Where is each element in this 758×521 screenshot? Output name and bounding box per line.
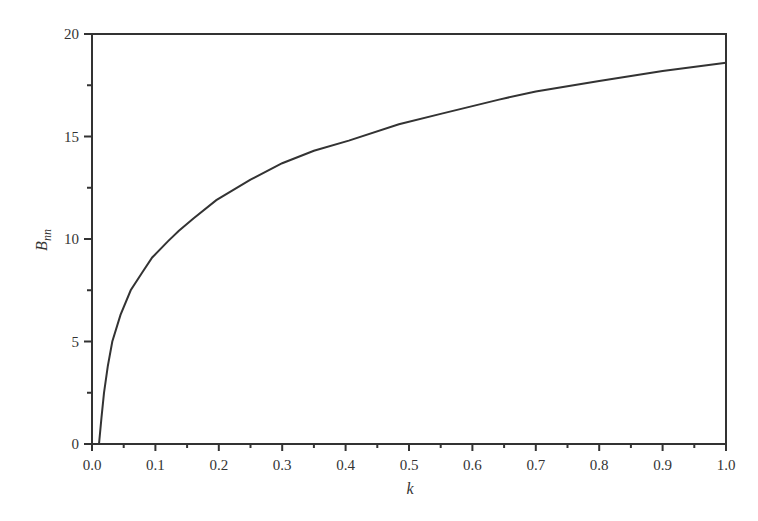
- x-tick-label: 0.3: [273, 457, 292, 473]
- x-axis-label: k: [406, 480, 414, 497]
- y-axis-label: Bnn: [33, 229, 54, 251]
- plot-border: [92, 34, 726, 444]
- x-tick-label: 0.8: [590, 457, 609, 473]
- y-axis-label-main: B: [33, 241, 50, 251]
- x-tick-label: 0.9: [653, 457, 672, 473]
- y-tick-label: 20: [64, 26, 79, 42]
- x-tick-label: 0.5: [400, 457, 419, 473]
- x-tick-label: 0.4: [336, 457, 355, 473]
- x-tick-label: 0.1: [146, 457, 165, 473]
- x-tick-label: 0.7: [526, 457, 545, 473]
- y-tick-label: 0: [72, 436, 80, 452]
- y-tick-label: 5: [72, 334, 80, 350]
- x-tick-label: 0.6: [463, 457, 482, 473]
- x-tick-label: 0.0: [83, 457, 102, 473]
- x-tick-label: 1.0: [717, 457, 736, 473]
- line-chart: 0.00.10.20.30.40.50.60.70.80.91.0 051015…: [0, 0, 758, 521]
- y-axis-ticks: 05101520: [64, 26, 92, 452]
- y-tick-label: 15: [64, 129, 79, 145]
- x-axis-ticks: 0.00.10.20.30.40.50.60.70.80.91.0: [83, 444, 736, 473]
- data-line-bnn: [99, 63, 726, 444]
- x-tick-label: 0.2: [209, 457, 228, 473]
- plot-frame: [92, 34, 726, 444]
- y-tick-label: 10: [64, 231, 79, 247]
- y-axis-label-subscript: nn: [40, 229, 54, 241]
